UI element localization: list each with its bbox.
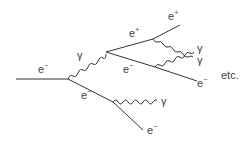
label-electron-out-right: e− <box>197 78 207 89</box>
photon-1-wavy-line <box>68 54 106 79</box>
label-electron-lower: e− <box>81 90 91 101</box>
label-photon-3: γ <box>197 55 203 66</box>
photon-2-wavy-line <box>153 39 193 57</box>
photon-4-wavy-line <box>113 100 157 104</box>
label-positron-1: e+ <box>129 28 139 39</box>
label-photon-4: γ <box>161 96 167 107</box>
label-etc: etc. <box>221 70 239 81</box>
label-electron-out-bottom: e− <box>147 125 157 136</box>
photon-3-wavy-line <box>155 52 194 67</box>
electron-out-bottom-line <box>113 102 143 130</box>
label-incoming-electron: e− <box>38 64 48 75</box>
electron-out-right-line <box>155 67 197 81</box>
label-positron-2: e+ <box>168 11 178 22</box>
positron-2-line <box>153 25 180 39</box>
label-photon-2: γ <box>197 43 203 54</box>
positron-1-line <box>106 39 153 52</box>
label-photon-1: γ <box>77 50 83 61</box>
label-electron-pair: e− <box>123 64 133 75</box>
